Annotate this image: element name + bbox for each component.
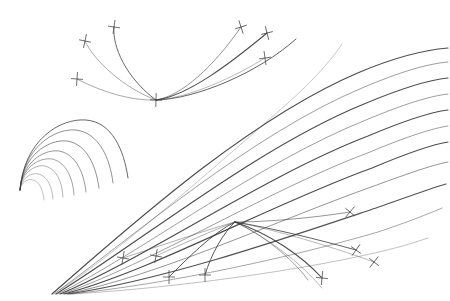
curve-family-canvas — [0, 0, 450, 301]
figure-root — [0, 0, 450, 301]
figure-background — [0, 0, 450, 301]
